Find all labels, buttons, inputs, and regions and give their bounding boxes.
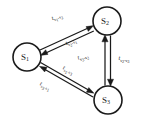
edge-label-s2-s3-text: ts2-s3 (119, 54, 130, 64)
edge-label-s3-s1: ts3-s1 (38, 80, 52, 93)
diagram-canvas: S1 S2 S3 ts1-s2 ts2-s1 ts2-s3 ts3-s2 ts1… (0, 0, 142, 127)
edge-s1-s2-line (40, 27, 92, 51)
edge-label-s1-s2-text: ts1-s2 (50, 11, 64, 24)
edge-s1-s2-arrowhead (86, 26, 94, 32)
node-s2[interactable]: S2 (93, 7, 121, 35)
edge-s2-s3 (107, 36, 113, 87)
edge-label-s2-s3: ts2-s3 (119, 54, 130, 64)
edge-group-s2-s3 (102, 35, 114, 86)
edge-s1-s3-arrowhead (86, 88, 94, 94)
edge-s2-s3-arrowhead (107, 79, 113, 86)
edge-s3-s1-arrowhead (39, 66, 47, 72)
edge-group-s1-s2 (40, 26, 94, 56)
edge-label-s3-s2-text: ts3-s2 (76, 51, 90, 64)
edge-s3-s2-arrowhead (102, 35, 108, 42)
node-s1[interactable]: S1 (13, 43, 41, 71)
node-s3[interactable]: S3 (94, 86, 122, 114)
edge-s3-s2 (102, 35, 108, 86)
state-transition-diagram: S1 S2 S3 ts1-s2 ts2-s1 ts2-s3 ts3-s2 ts1… (0, 0, 142, 127)
edge-label-s1-s2: ts1-s2 (50, 11, 64, 24)
edge-label-s3-s1-text: ts3-s1 (38, 80, 52, 93)
edge-label-s3-s2: ts3-s2 (76, 51, 90, 64)
